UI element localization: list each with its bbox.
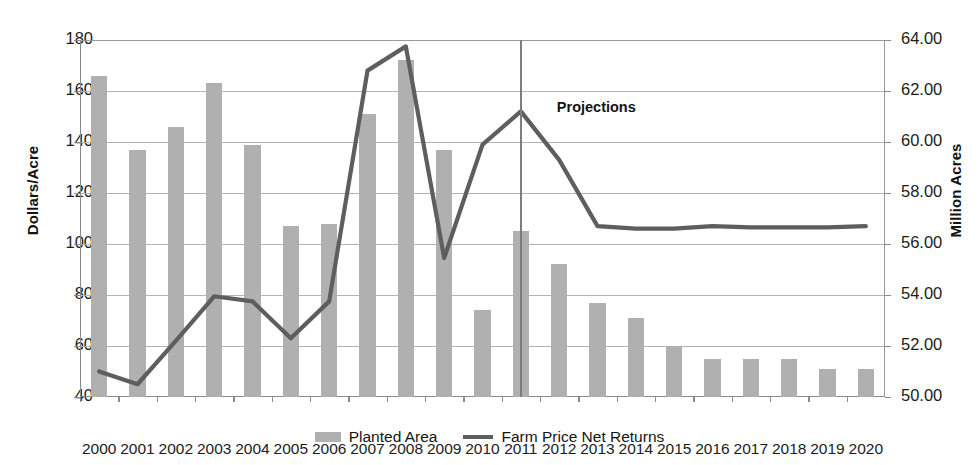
chart-container: Dollars/Acre Million Acres 1801601401201…: [0, 0, 979, 465]
x-axis-tickmark: [540, 397, 541, 402]
legend-item-planted-area[interactable]: Planted Area: [315, 428, 438, 446]
x-axis-tickmark: [847, 397, 848, 402]
y-axis-right-tick-label: 64.00: [901, 29, 971, 48]
y-axis-right-tick-label: 54.00: [901, 284, 971, 303]
y-axis-right-tick-label: 56.00: [901, 233, 971, 252]
line-series-farm-price-net-returns: [80, 40, 885, 397]
y-axis-right-tickmark: [885, 244, 891, 245]
x-axis-tickmark: [272, 397, 273, 402]
legend-label-farm-price-net-returns: Farm Price Net Returns: [501, 428, 664, 446]
y-axis-right-tick-label: 58.00: [901, 182, 971, 201]
x-axis-tickmark: [425, 397, 426, 402]
y-axis-right-tickmark: [885, 397, 891, 398]
x-axis-tickmark: [808, 397, 809, 402]
x-axis-tickmark: [463, 397, 464, 402]
x-axis-tickmark: [348, 397, 349, 402]
x-axis-tickmark: [387, 397, 388, 402]
line-path: [99, 46, 866, 384]
chart-legend: Planted Area Farm Price Net Returns: [0, 428, 979, 446]
x-axis-tickmark: [157, 397, 158, 402]
x-axis-tickmark: [770, 397, 771, 402]
bar-swatch-icon: [315, 432, 341, 442]
x-axis-tickmark: [502, 397, 503, 402]
y-axis-right-tickmark: [885, 40, 891, 41]
y-axis-right-tickmark: [885, 193, 891, 194]
legend-label-planted-area: Planted Area: [349, 428, 438, 446]
x-axis-tickmark: [310, 397, 311, 402]
x-axis-tickmark: [732, 397, 733, 402]
y-axis-right-tickmark: [885, 295, 891, 296]
x-axis-tickmark: [655, 397, 656, 402]
projections-label: Projections: [557, 99, 636, 115]
y-axis-right-tickmark: [885, 142, 891, 143]
x-axis-tickmark: [617, 397, 618, 402]
legend-item-farm-price-net-returns[interactable]: Farm Price Net Returns: [463, 428, 664, 446]
y-axis-right-tick-label: 62.00: [901, 80, 971, 99]
plot-area: Projections 2000200120022003200420052006…: [80, 40, 885, 397]
x-axis-tickmark: [233, 397, 234, 402]
x-axis-tickmark: [118, 397, 119, 402]
x-axis-tickmark: [195, 397, 196, 402]
line-swatch-icon: [463, 435, 493, 439]
x-axis-tickmark: [693, 397, 694, 402]
projections-divider-line: [520, 40, 523, 397]
y-axis-right-tickmark: [885, 346, 891, 347]
y-axis-right-tick-label: 60.00: [901, 131, 971, 150]
x-axis-tickmark: [578, 397, 579, 402]
y-axis-right-tick-label: 52.00: [901, 335, 971, 354]
y-axis-right-tick-label: 50.00: [901, 386, 971, 405]
x-axis-tickmark: [80, 397, 81, 402]
y-axis-right-tickmark: [885, 91, 891, 92]
